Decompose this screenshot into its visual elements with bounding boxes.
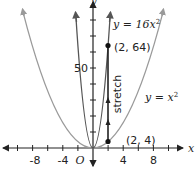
point-2-64 xyxy=(105,43,110,48)
stretch-label: stretch xyxy=(111,75,124,113)
stretch-arrow xyxy=(106,46,111,142)
y-axis xyxy=(90,2,96,166)
y-tick-label: 50 xyxy=(74,62,88,75)
x-tick-label: 8 xyxy=(150,154,157,167)
point-2-4 xyxy=(105,139,110,144)
curve-label-x2: y = x2 xyxy=(144,91,178,104)
point-label-2-64: (2, 64) xyxy=(114,41,151,54)
x-tick-label: -8 xyxy=(30,154,41,167)
origin-label: O xyxy=(75,154,84,167)
x-tick-label: 4 xyxy=(120,154,127,167)
x-tick-label: -4 xyxy=(58,154,69,167)
graph-canvas: -8 -4 O 4 8 50 x y y = 16x2 y = x2 (2, 6… xyxy=(0,0,195,170)
curve-label-16x2: y = 16x2 xyxy=(112,18,160,31)
x-axis-label: x xyxy=(188,142,195,155)
y-axis-label: y xyxy=(90,0,97,6)
point-label-2-4: (2, 4) xyxy=(126,134,156,147)
